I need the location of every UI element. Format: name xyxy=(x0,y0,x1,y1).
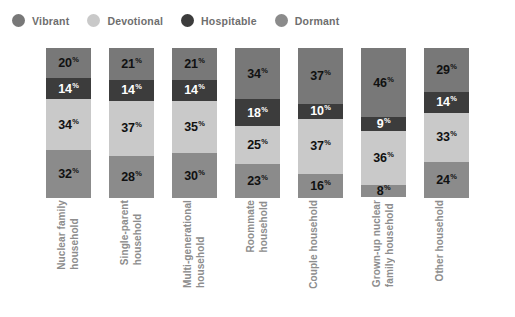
bar-segment-vibrant[interactable]: 37% xyxy=(298,48,343,104)
percent-sign: % xyxy=(384,117,390,125)
percent-sign: % xyxy=(198,82,204,91)
percent-sign: % xyxy=(450,94,456,103)
bar-segment-vibrant[interactable]: 34% xyxy=(235,48,280,99)
bar-segment-devotional[interactable]: 37% xyxy=(109,101,154,157)
bar-column[interactable]: 29%14%33%24% xyxy=(424,48,469,198)
bar-segment-devotional[interactable]: 35% xyxy=(172,101,217,154)
bar-segment-value: 29% xyxy=(436,63,456,77)
bar-segment-value: 16% xyxy=(310,179,330,193)
bar-segment-dormant[interactable]: 24% xyxy=(424,162,469,198)
percent-sign: % xyxy=(198,119,204,128)
bar-column[interactable]: 34%18%25%23% xyxy=(235,48,280,198)
bar-segment-vibrant[interactable]: 46% xyxy=(361,48,406,117)
category-label: Single-parent household xyxy=(119,200,144,265)
legend-item-hospitable[interactable]: Hospitable xyxy=(181,14,257,27)
legend-item-label: Devotional xyxy=(107,15,163,27)
bar-column[interactable]: 37%10%37%16% xyxy=(298,48,343,198)
bar-segment-hospitable[interactable]: 9% xyxy=(361,117,406,131)
legend-item-label: Dormant xyxy=(295,15,340,27)
bar-segment-value: 9% xyxy=(377,117,391,131)
percent-sign: % xyxy=(384,185,390,192)
bar-column[interactable]: 21%14%35%30% xyxy=(172,48,217,198)
bar-segment-value: 46% xyxy=(373,76,393,90)
bar-segment-value: 8% xyxy=(377,185,391,197)
legend-item-dormant[interactable]: Dormant xyxy=(275,14,340,27)
bar-segment-hospitable[interactable]: 14% xyxy=(172,80,217,101)
bar-segment-value: 14% xyxy=(121,83,141,97)
legend-item-vibrant[interactable]: Vibrant xyxy=(12,14,69,27)
bar-segment-value: 21% xyxy=(184,57,204,71)
bar-segment-hospitable[interactable]: 10% xyxy=(298,104,343,119)
category-label: Multi-generational household xyxy=(182,200,207,288)
bar-column[interactable]: 46%9%36%8% xyxy=(361,48,406,198)
category-label: Other household xyxy=(434,200,447,282)
percent-sign: % xyxy=(198,56,204,65)
percent-sign: % xyxy=(387,75,393,84)
bar-segment-value: 10% xyxy=(310,104,330,118)
percent-sign: % xyxy=(387,150,393,159)
bar-segment-value: 14% xyxy=(58,82,78,96)
bar-segment-vibrant[interactable]: 21% xyxy=(109,48,154,80)
percent-sign: % xyxy=(450,129,456,138)
percent-sign: % xyxy=(324,68,330,77)
bar-segment-dormant[interactable]: 28% xyxy=(109,156,154,198)
percent-sign: % xyxy=(261,66,267,75)
bar-column[interactable]: 20%14%34%32% xyxy=(46,48,91,198)
x-axis-category-labels: Nuclear family householdSingle-parent ho… xyxy=(0,200,515,317)
chart-plot-area: 20%14%34%32%21%14%37%28%21%14%35%30%34%1… xyxy=(0,48,515,198)
percent-sign: % xyxy=(135,82,141,91)
percent-sign: % xyxy=(324,178,330,187)
bar-segment-hospitable[interactable]: 14% xyxy=(109,80,154,101)
category-label: Grown-up nuclear family household xyxy=(371,200,396,287)
percent-sign: % xyxy=(198,168,204,177)
bar-segment-hospitable[interactable]: 18% xyxy=(235,99,280,126)
percent-sign: % xyxy=(324,138,330,147)
bar-segment-value: 30% xyxy=(184,169,204,183)
bar-segment-value: 34% xyxy=(247,67,267,81)
legend-item-devotional[interactable]: Devotional xyxy=(87,14,163,27)
percent-sign: % xyxy=(72,117,78,126)
percent-sign: % xyxy=(261,173,267,182)
bar-segment-value: 14% xyxy=(184,83,204,97)
bar-segment-vibrant[interactable]: 20% xyxy=(46,48,91,78)
category-label: Nuclear family household xyxy=(56,200,81,270)
bar-segment-devotional[interactable]: 25% xyxy=(235,126,280,164)
bar-segment-value: 37% xyxy=(310,69,330,83)
bar-segment-value: 20% xyxy=(58,56,78,70)
bar-segment-value: 21% xyxy=(121,57,141,71)
bar-segment-hospitable[interactable]: 14% xyxy=(46,78,91,99)
bar-segment-dormant[interactable]: 30% xyxy=(172,153,217,198)
bar-segment-devotional[interactable]: 33% xyxy=(424,113,469,163)
bar-segment-value: 37% xyxy=(310,139,330,153)
percent-sign: % xyxy=(135,56,141,65)
bar-segment-hospitable[interactable]: 14% xyxy=(424,92,469,113)
bar-segment-value: 28% xyxy=(121,170,141,184)
percent-sign: % xyxy=(450,172,456,181)
circle-icon xyxy=(275,14,288,27)
bar-segment-dormant[interactable]: 16% xyxy=(298,174,343,198)
bar-segment-value: 23% xyxy=(247,174,267,188)
percent-sign: % xyxy=(72,55,78,64)
bar-segment-devotional[interactable]: 34% xyxy=(46,99,91,150)
bar-column[interactable]: 21%14%37%28% xyxy=(109,48,154,198)
bar-segment-vibrant[interactable]: 29% xyxy=(424,48,469,92)
percent-sign: % xyxy=(135,120,141,129)
legend-item-label: Hospitable xyxy=(201,15,257,27)
bar-segment-dormant[interactable]: 23% xyxy=(235,164,280,199)
percent-sign: % xyxy=(261,105,267,114)
bar-segment-value: 24% xyxy=(436,173,456,187)
percent-sign: % xyxy=(135,169,141,178)
bar-segment-vibrant[interactable]: 21% xyxy=(172,48,217,80)
category-label: Roommate household xyxy=(245,200,270,252)
bar-segment-devotional[interactable]: 37% xyxy=(298,119,343,175)
bar-segment-dormant[interactable]: 32% xyxy=(46,150,91,198)
bar-segment-dormant[interactable]: 8% xyxy=(361,185,406,197)
percent-sign: % xyxy=(72,166,78,175)
bar-segment-value: 33% xyxy=(436,130,456,144)
bar-segment-value: 37% xyxy=(121,121,141,135)
bar-segment-value: 18% xyxy=(247,106,267,120)
percent-sign: % xyxy=(261,137,267,146)
bar-segment-value: 36% xyxy=(373,151,393,165)
bar-segment-value: 34% xyxy=(58,118,78,132)
bar-segment-devotional[interactable]: 36% xyxy=(361,131,406,185)
